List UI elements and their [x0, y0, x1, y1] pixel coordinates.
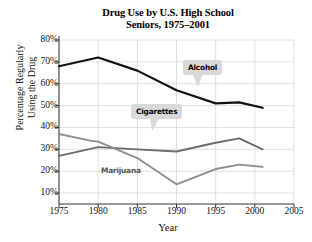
chart-plot-area — [0, 0, 312, 242]
callout-tail-alcohol — [192, 73, 203, 87]
series-line-marijuana — [59, 134, 263, 184]
label-marijuana-text: Marijuana — [101, 166, 141, 175]
series-label-marijuana: Marijuana — [101, 167, 141, 174]
callout-cigarettes-label: Cigarettes — [136, 107, 177, 116]
chart-figure: Drug Use by U.S. High School Seniors, 19… — [0, 0, 312, 242]
series-line-alcohol — [59, 57, 263, 107]
callout-alcohol-label: Alcohol — [188, 63, 217, 72]
callout-tail-cigarettes — [150, 117, 160, 131]
series-callout-cigarettes: Cigarettes — [131, 104, 182, 119]
series-callout-alcohol: Alcohol — [183, 60, 222, 75]
